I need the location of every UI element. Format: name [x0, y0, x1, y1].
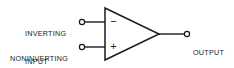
- output-label: OUTPUT: [193, 30, 233, 68]
- noninverting-input-label-line1: NONINVERTING: [10, 54, 77, 63]
- plus-sign-icon: +: [110, 40, 116, 52]
- inverting-input-terminal: [79, 19, 84, 24]
- op-amp-schematic-diagram: − + INVERTING INPUT NONINVERTING INPUT O…: [0, 0, 234, 68]
- output-terminal: [184, 31, 189, 36]
- noninverting-input-terminal: [79, 44, 84, 49]
- noninverting-input-label: NONINVERTING INPUT: [10, 36, 77, 68]
- minus-sign-icon: −: [110, 15, 116, 27]
- output-label-line1: OUTPUT: [193, 48, 233, 57]
